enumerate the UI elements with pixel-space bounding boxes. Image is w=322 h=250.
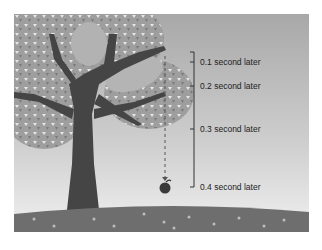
illustration-frame: 0.1 second later 0.2 second later 0.3 se… bbox=[14, 14, 309, 232]
time-label-0.1: 0.1 second later bbox=[200, 57, 260, 67]
falling-apple-illustration bbox=[14, 14, 309, 232]
time-label-0.3: 0.3 second later bbox=[200, 124, 260, 134]
time-label-0.2: 0.2 second later bbox=[200, 81, 260, 91]
time-label-0.4: 0.4 second later bbox=[200, 182, 260, 192]
